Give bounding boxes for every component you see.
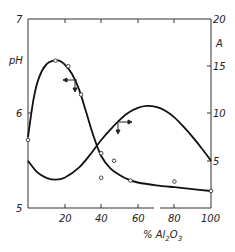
- y-left-tick-7: 7: [16, 14, 23, 25]
- y-right-tick-15: 15: [213, 61, 226, 72]
- data-point: [99, 176, 103, 180]
- x-tick-80: 80: [168, 213, 181, 224]
- y-right-tick-20: 20: [213, 14, 226, 25]
- data-point: [129, 179, 133, 183]
- y-left-axis-label: pH: [8, 55, 23, 66]
- y-left-tick-6: 6: [16, 108, 22, 119]
- data-point: [54, 59, 58, 63]
- data-point: [79, 93, 83, 97]
- data-point: [173, 180, 177, 184]
- x-axis-label: % Al2O3: [143, 229, 182, 243]
- y-left-tick-5: 5: [16, 203, 22, 214]
- data-point: [112, 159, 116, 163]
- chart: 7 6 5 pH 20 A 15 10 5 20 40 60 80 100 % …: [0, 0, 235, 252]
- arrow-left-ph: [63, 78, 77, 92]
- x-tick-20: 20: [59, 213, 72, 224]
- data-point: [99, 151, 103, 155]
- data-point: [26, 138, 30, 142]
- y-right-axis-label: A: [215, 38, 223, 49]
- y-right-tick-5: 5: [213, 156, 219, 167]
- x-tick-40: 40: [95, 213, 108, 224]
- y-right-tick-10: 10: [213, 108, 226, 119]
- data-point: [66, 64, 70, 68]
- x-tick-100: 100: [201, 213, 220, 224]
- ph-data-points: [26, 59, 213, 193]
- data-point: [209, 189, 213, 193]
- a-curve: [28, 106, 211, 180]
- x-tick-60: 60: [132, 213, 145, 224]
